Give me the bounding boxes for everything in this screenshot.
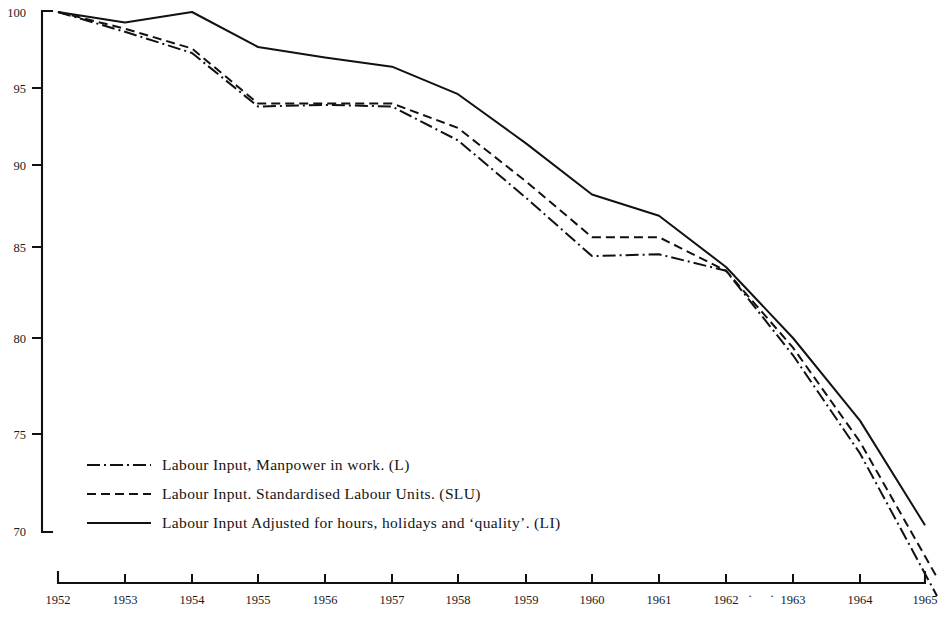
legend-label-l: Labour Input, Manpower in work. (L) xyxy=(162,456,410,474)
y-axis-tick-labels: 100959085807570 xyxy=(7,6,26,539)
legend-row-slu: Labour Input. Standardised Labour Units.… xyxy=(86,479,746,508)
x-tick-label-1961: 1961 xyxy=(647,593,672,607)
y-tick-label-85: 85 xyxy=(14,241,27,255)
dot-before-1963: · xyxy=(770,589,774,603)
x-tick-label-1956: 1956 xyxy=(313,593,338,607)
x-tick-label-1958: 1958 xyxy=(446,593,471,607)
legend-label-li: Labour Input Adjusted for hours, holiday… xyxy=(162,514,560,532)
x-tick-label-1965: 1965 xyxy=(913,593,938,607)
series-line-li xyxy=(58,12,925,525)
y-axis-ticks xyxy=(32,88,42,434)
x-axis-line xyxy=(58,572,925,583)
y-tick-label-100: 100 xyxy=(7,6,26,20)
dot-after-1962: · xyxy=(748,589,752,603)
y-axis-line xyxy=(42,11,52,532)
x-tick-label-1963: 1963 xyxy=(781,593,806,607)
legend-label-slu: Labour Input. Standardised Labour Units.… xyxy=(162,485,481,503)
legend-row-li: Labour Input Adjusted for hours, holiday… xyxy=(86,508,746,537)
legend-swatch-dash-dot xyxy=(86,458,152,472)
x-tick-label-1959: 1959 xyxy=(514,593,539,607)
y-tick-label-90: 90 xyxy=(14,159,27,173)
x-tick-label-1952: 1952 xyxy=(46,593,71,607)
x-tick-label-1957: 1957 xyxy=(380,593,405,607)
axis-extra-marks: ·· xyxy=(748,589,774,603)
x-axis-ticks xyxy=(125,574,860,583)
legend-row-l: Labour Input, Manpower in work. (L) xyxy=(86,450,746,479)
y-tick-label-70: 70 xyxy=(14,525,27,539)
x-tick-label-1960: 1960 xyxy=(580,593,605,607)
x-axis-tick-labels: 1952195319541955195619571958195919601961… xyxy=(46,593,938,607)
y-tick-label-95: 95 xyxy=(14,82,27,96)
y-tick-label-75: 75 xyxy=(14,428,27,442)
x-tick-label-1954: 1954 xyxy=(180,593,206,607)
legend-swatch-dashed xyxy=(86,487,152,501)
x-tick-label-1962: 1962 xyxy=(714,593,739,607)
x-tick-label-1953: 1953 xyxy=(113,593,138,607)
y-tick-label-80: 80 xyxy=(14,332,27,346)
x-tick-label-1955: 1955 xyxy=(246,593,271,607)
x-tick-label-1964: 1964 xyxy=(848,593,874,607)
legend-swatch-solid xyxy=(86,516,152,530)
legend: Labour Input, Manpower in work. (L) Labo… xyxy=(86,450,746,537)
labour-input-index-chart: 100959085807570 195219531954195519561957… xyxy=(0,0,939,621)
